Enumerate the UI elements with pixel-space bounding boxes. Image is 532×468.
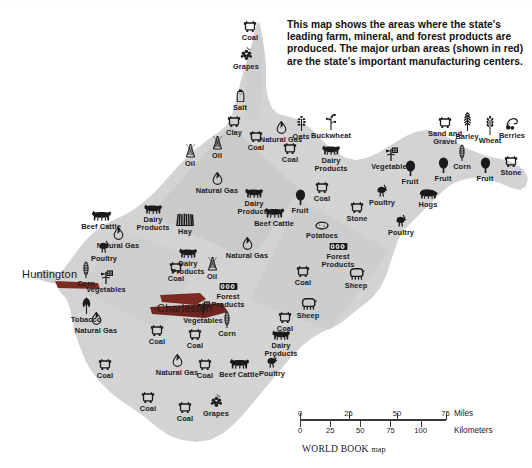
map-symbol-label: Coal bbox=[283, 279, 323, 287]
salt-shaker-icon bbox=[220, 89, 260, 103]
coal-cart-icon bbox=[265, 312, 305, 324]
scale-bar-rule bbox=[300, 419, 446, 421]
map-symbol-label: Stone bbox=[337, 215, 377, 223]
map-symbol-coal: Coal bbox=[283, 266, 323, 287]
scale-number-miles: 0 bbox=[298, 409, 302, 418]
map-symbol-label: Salt bbox=[220, 104, 260, 112]
lumber-icon bbox=[205, 282, 251, 292]
map-symbol-hogs: Hogs bbox=[408, 188, 448, 209]
scale-unit-miles: Miles bbox=[454, 409, 473, 418]
hog-icon bbox=[408, 188, 448, 200]
map-symbol-label: Hay bbox=[165, 228, 205, 236]
poultry-icon bbox=[381, 214, 421, 228]
map-symbol-label: Coal bbox=[230, 34, 270, 42]
map-symbol-label: Grapes bbox=[196, 410, 236, 418]
map-symbol-label: Natural Gas bbox=[73, 327, 119, 335]
map-symbol-coal: Coal bbox=[128, 392, 168, 413]
map-symbol-buckwheat: Buckwheat bbox=[311, 114, 351, 140]
map-symbol-label: Buckwheat bbox=[311, 132, 351, 140]
scale-bar: 02550750255075100 Miles Kilometers bbox=[300, 409, 460, 437]
coal-cart-icon bbox=[128, 392, 168, 404]
map-symbol-coal: Coal bbox=[230, 21, 270, 42]
beef-cattle-icon bbox=[78, 209, 124, 222]
potato-icon bbox=[302, 221, 342, 231]
fruit-tree-icon bbox=[280, 189, 320, 206]
map-symbol-grapes: Grapes bbox=[226, 47, 266, 71]
map-caption: This map shows the areas where the state… bbox=[287, 19, 527, 68]
map-symbol-coal: Coal bbox=[185, 359, 225, 380]
map-symbol-label: Potatoes bbox=[302, 232, 342, 240]
map-symbol-label: Coal bbox=[270, 156, 310, 164]
map-symbol-vegetables: Vegetables bbox=[83, 269, 129, 294]
map-symbol-label: Oil bbox=[197, 152, 237, 160]
lumber-icon bbox=[315, 242, 361, 252]
gas-flame-icon bbox=[73, 312, 119, 326]
sheep-icon bbox=[288, 298, 328, 311]
map-symbol-dairy-products: Dairy Products bbox=[258, 329, 304, 358]
scale-number-kilometers: 50 bbox=[356, 426, 364, 435]
map-symbol-label: Stone bbox=[491, 169, 531, 177]
map-symbol-label: Coal bbox=[137, 338, 177, 346]
scale-number-kilometers: 100 bbox=[414, 426, 427, 435]
scale-number-kilometers: 0 bbox=[298, 426, 302, 435]
scale-unit-kilometers: Kilometers bbox=[454, 426, 493, 435]
map-symbol-label: Dairy Products bbox=[308, 157, 354, 173]
map-symbol-hay: Hay bbox=[165, 213, 205, 236]
coal-cart-icon bbox=[491, 156, 531, 168]
poultry-icon bbox=[84, 240, 124, 254]
map-symbol-grapes: Grapes bbox=[196, 394, 236, 418]
map-symbol-berries: Berries bbox=[492, 117, 532, 140]
scale-number-miles: 25 bbox=[344, 409, 352, 418]
map-symbol-poultry: Poultry bbox=[381, 214, 421, 237]
map-symbol-stone: Stone bbox=[491, 156, 531, 177]
coal-cart-icon bbox=[283, 266, 323, 278]
map-symbol-coal: Coal bbox=[156, 262, 196, 283]
gas-flame-icon bbox=[224, 237, 270, 251]
publisher-credit: WORLD BOOK map bbox=[302, 443, 386, 454]
gas-flame-icon bbox=[194, 172, 240, 186]
map-symbol-natural-gas: Natural Gas bbox=[73, 312, 119, 335]
map-symbol-label: Coal bbox=[175, 342, 215, 350]
map-symbol-salt: Salt bbox=[220, 89, 260, 112]
map-symbol-label: Coal bbox=[185, 372, 225, 380]
map-symbol-label: Oil bbox=[170, 160, 210, 168]
poultry-icon bbox=[362, 184, 402, 198]
fruit-tree-icon bbox=[390, 160, 430, 177]
grapes-icon bbox=[196, 394, 236, 409]
coal-cart-icon bbox=[175, 329, 215, 341]
map-symbol-beef-cattle: Beef Cattle bbox=[251, 206, 297, 228]
hay-icon bbox=[165, 213, 205, 227]
map-symbol-label: Sheep bbox=[336, 282, 376, 290]
state-outline-svg bbox=[0, 0, 532, 468]
map-symbol-label: Beef Cattle bbox=[251, 220, 297, 228]
dairy-cow-icon bbox=[308, 144, 354, 156]
coal-cart-icon bbox=[270, 143, 310, 155]
scale-number-miles: 50 bbox=[393, 409, 401, 418]
map-symbol-label: Coal bbox=[156, 275, 196, 283]
west-virginia-products-map: This map shows the areas where the state… bbox=[0, 0, 532, 468]
coal-cart-icon bbox=[156, 262, 196, 274]
scale-number-kilometers: 75 bbox=[386, 426, 394, 435]
grapes-icon bbox=[226, 47, 266, 62]
map-symbol-label: Berries bbox=[492, 132, 532, 140]
coal-cart-icon bbox=[85, 359, 125, 371]
map-symbol-label: Poultry bbox=[381, 229, 421, 237]
scale-number-kilometers: 25 bbox=[326, 426, 334, 435]
sheep-icon bbox=[336, 268, 376, 281]
corn-icon bbox=[207, 311, 247, 329]
map-symbol-stone: Stone bbox=[337, 202, 377, 223]
map-symbol-dairy-products: Dairy Products bbox=[308, 144, 354, 173]
map-symbol-label: Grapes bbox=[226, 63, 266, 71]
coal-cart-icon bbox=[337, 202, 377, 214]
map-symbol-label: Coal bbox=[85, 372, 125, 380]
credit-suffix: map bbox=[371, 445, 385, 454]
buckwheat-icon bbox=[311, 114, 351, 131]
map-symbol-coal: Coal bbox=[270, 143, 310, 164]
map-symbol-poultry: Poultry bbox=[84, 240, 124, 263]
oil-derrick-icon bbox=[197, 136, 237, 151]
map-symbol-coal: Coal bbox=[85, 359, 125, 380]
scale-number-miles: 75 bbox=[441, 409, 449, 418]
dairy-cow-icon bbox=[258, 329, 304, 341]
vegetables-icon bbox=[83, 269, 129, 285]
map-symbol-oil: Oil bbox=[197, 136, 237, 160]
